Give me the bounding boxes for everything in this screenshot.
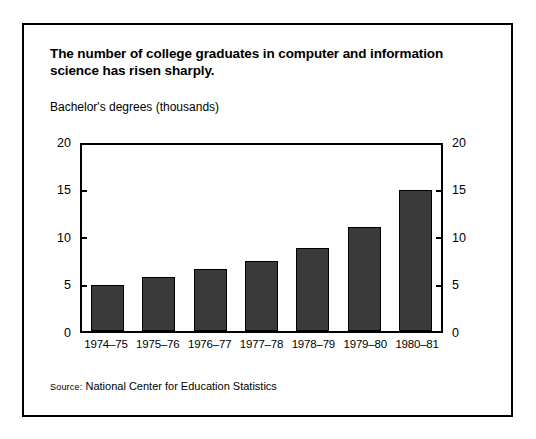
- chart-title: The number of college graduates in compu…: [50, 45, 480, 79]
- bar-slot: [390, 145, 441, 331]
- x-tick-label: 1978–79: [287, 338, 339, 350]
- bar-1975-76: [142, 277, 175, 331]
- chart-title-line-1: The number of college graduates in compu…: [50, 45, 480, 62]
- chart-title-line-2: science has risen sharply.: [50, 62, 480, 79]
- bar-slot: [338, 145, 389, 331]
- bar-1976-77: [194, 269, 227, 331]
- y-tick-mark-left-5: [80, 285, 87, 287]
- source-label: Source:: [50, 382, 82, 392]
- y-tick-label-right-5: 5: [452, 279, 459, 292]
- y-tick-label-right-10: 10: [452, 232, 466, 245]
- bar-1974-75: [91, 285, 124, 332]
- y-tick-mark-right-10: [436, 237, 443, 239]
- x-axis-tick-labels: 1974–751975–761976–771977–781978–791979–…: [80, 338, 443, 350]
- y-tick-mark-right-15: [436, 190, 443, 192]
- bar-slot: [133, 145, 184, 331]
- bar-slot: [185, 145, 236, 331]
- x-tick-label: 1974–75: [80, 338, 132, 350]
- x-tick-label: 1975–76: [132, 338, 184, 350]
- y-tick-label-right-15: 15: [452, 184, 466, 197]
- y-tick-label-left-20: 20: [57, 137, 71, 150]
- y-tick-label-left-10: 10: [57, 232, 71, 245]
- x-tick-label: 1979–80: [339, 338, 391, 350]
- y-tick-mark-right-5: [436, 285, 443, 287]
- bar-1979-80: [348, 227, 381, 331]
- x-tick-label: 1976–77: [184, 338, 236, 350]
- bar-series: [82, 145, 441, 331]
- bar-1978-79: [296, 248, 329, 331]
- bar-slot: [287, 145, 338, 331]
- y-tick-label-left-0: 0: [64, 327, 71, 340]
- bar-slot: [82, 145, 133, 331]
- y-tick-mark-left-10: [80, 237, 87, 239]
- bar-1980-81: [399, 190, 432, 331]
- chart-figure-frame: The number of college graduates in compu…: [22, 23, 513, 417]
- bar-1977-78: [245, 261, 278, 331]
- chart-subtitle-axis-units: Bachelor's degrees (thousands): [50, 100, 219, 115]
- y-tick-label-left-15: 15: [57, 184, 71, 197]
- x-tick-label: 1980–81: [391, 338, 443, 350]
- y-tick-label-left-5: 5: [64, 279, 71, 292]
- chart-plot-area: 0510152005101520: [80, 143, 443, 333]
- source-text: National Center for Education Statistics: [85, 380, 276, 392]
- y-tick-mark-left-15: [80, 190, 87, 192]
- source-note: Source: National Center for Education St…: [50, 380, 277, 392]
- bar-slot: [236, 145, 287, 331]
- y-tick-label-right-0: 0: [452, 327, 459, 340]
- y-tick-label-right-20: 20: [452, 137, 466, 150]
- x-tick-label: 1977–78: [236, 338, 288, 350]
